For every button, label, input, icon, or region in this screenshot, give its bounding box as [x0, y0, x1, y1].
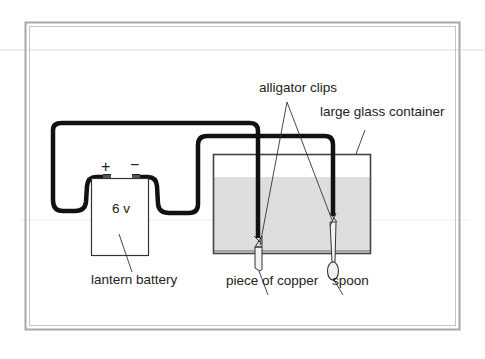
label-alligator-clips: alligator clips — [259, 81, 337, 95]
label-large-glass-container: large glass container — [320, 105, 445, 119]
negative-sign: − — [130, 157, 139, 173]
label-spoon: spoon — [332, 274, 369, 288]
battery-voltage-label: 6 v — [112, 202, 130, 216]
label-piece-of-copper: piece of copper — [226, 274, 318, 288]
electroplating-diagram — [0, 0, 485, 359]
positive-sign: + — [101, 159, 110, 175]
glass-container — [214, 155, 371, 254]
label-lantern-battery: lantern battery — [91, 273, 177, 287]
water — [214, 177, 370, 253]
